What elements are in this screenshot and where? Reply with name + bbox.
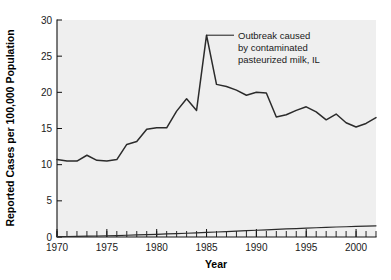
y-axis-title: Reported Cases per 100,000 Population xyxy=(4,29,16,226)
y-tick-label: 20 xyxy=(41,87,53,98)
chart-figure: 051015202530 197019751980198519901995200… xyxy=(0,0,391,280)
x-tick-label: 1975 xyxy=(96,242,119,253)
y-tick-label: 10 xyxy=(41,159,53,170)
x-tick-label: 2000 xyxy=(345,242,368,253)
y-tick-label: 30 xyxy=(41,15,53,26)
y-tick-label: 25 xyxy=(41,51,53,62)
y-tick-label: 5 xyxy=(46,195,52,206)
y-tick-label: 15 xyxy=(41,123,53,134)
annotation-line: pasteurized milk, IL xyxy=(238,54,320,65)
line-chart: 051015202530 197019751980198519901995200… xyxy=(0,0,391,280)
outbreak-annotation-text: Outbreak causedby contaminatedpasteurize… xyxy=(238,30,320,65)
annotation-line: by contaminated xyxy=(238,42,308,53)
y-tick-label: 0 xyxy=(46,232,52,243)
x-tick-label: 1970 xyxy=(46,242,69,253)
annotation-line: Outbreak caused xyxy=(238,30,310,41)
plot-area-background xyxy=(57,20,376,237)
x-tick-label: 1990 xyxy=(245,242,268,253)
x-tick-label: 1995 xyxy=(295,242,318,253)
x-tick-label: 1985 xyxy=(195,242,218,253)
x-axis-title: Year xyxy=(205,258,227,270)
x-tick-label: 1980 xyxy=(146,242,169,253)
